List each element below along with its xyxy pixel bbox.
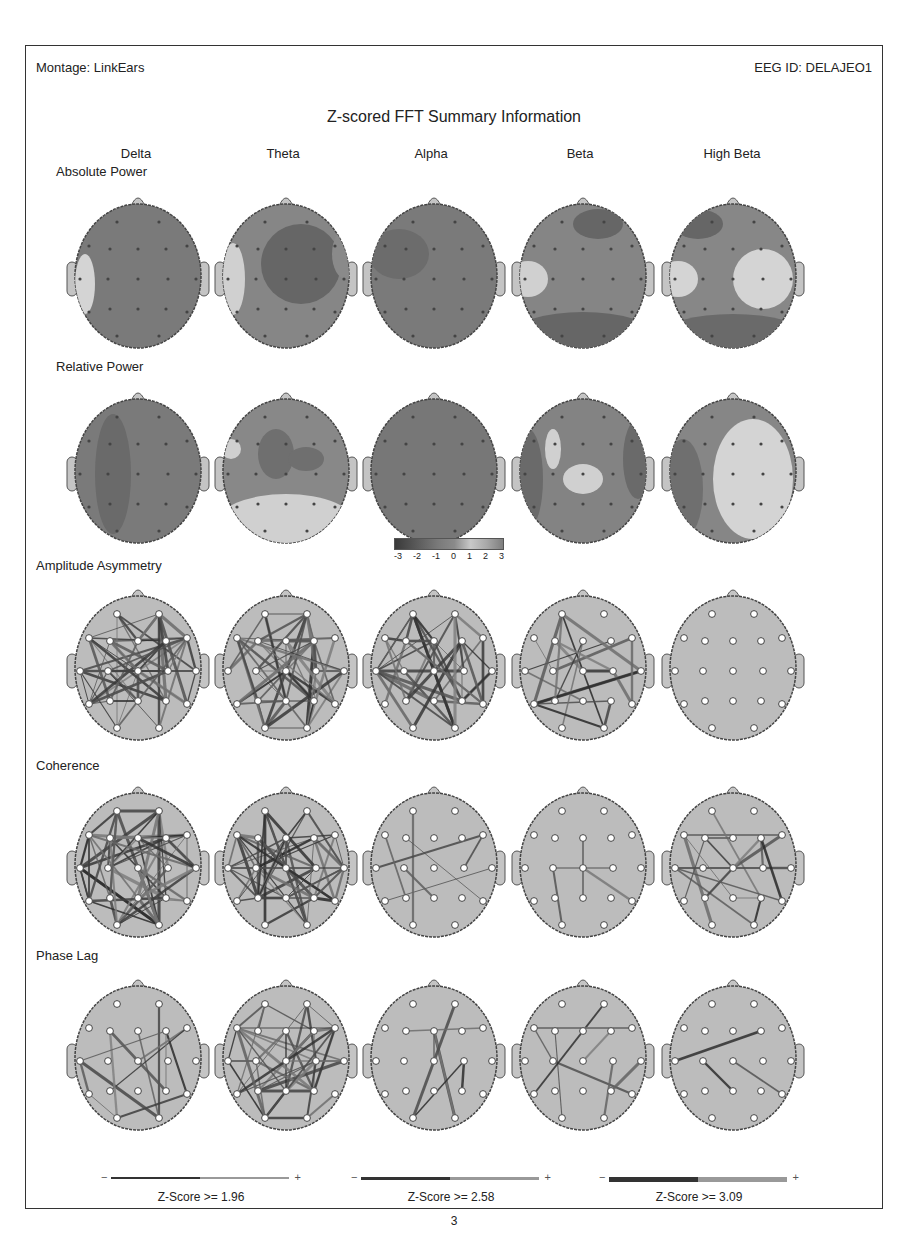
colorbar-ticks: -3 -2 -1 0 1 2 3 xyxy=(394,551,504,561)
head-map-amplitude-asymmetry-high-beta xyxy=(658,576,808,746)
minus-sign: − xyxy=(599,1171,605,1183)
band-header-theta: Theta xyxy=(213,146,353,161)
tick: 1 xyxy=(467,551,472,561)
legend-z-196: − + Z-Score >= 1.96 xyxy=(101,1174,301,1204)
head-map-amplitude-asymmetry-alpha xyxy=(359,576,509,746)
minus-sign: − xyxy=(351,1171,357,1183)
tick: 2 xyxy=(483,551,488,561)
head-map-amplitude-asymmetry-beta xyxy=(508,576,658,746)
tick: -3 xyxy=(394,551,402,561)
page-number: 3 xyxy=(26,1214,882,1228)
row-label-amplitude-asymmetry: Amplitude Asymmetry xyxy=(36,558,162,573)
head-map-relative-power-theta xyxy=(211,379,361,549)
montage-label: Montage: LinkEars xyxy=(36,60,144,75)
head-map-phase-lag-theta xyxy=(211,966,361,1136)
row-label-absolute-power: Absolute Power xyxy=(56,164,147,179)
colorbar-gradient xyxy=(394,538,504,550)
head-map-phase-lag-delta xyxy=(63,966,213,1136)
head-map-coherence-theta xyxy=(211,773,361,943)
head-map-absolute-power-alpha xyxy=(359,184,509,354)
page-title: Z-scored FFT Summary Information xyxy=(26,108,882,126)
head-map-absolute-power-theta xyxy=(211,184,361,354)
z-colorbar: -3 -2 -1 0 1 2 3 xyxy=(394,538,504,561)
head-map-coherence-alpha xyxy=(359,773,509,943)
plus-sign: + xyxy=(295,1171,301,1183)
row-label-phase-lag: Phase Lag xyxy=(36,948,98,963)
head-map-coherence-delta xyxy=(63,773,213,943)
legend-line xyxy=(609,1177,787,1182)
eeg-id-label: EEG ID: DELAJEO1 xyxy=(754,60,872,75)
tick: -1 xyxy=(432,551,440,561)
legend-z-258: − + Z-Score >= 2.58 xyxy=(351,1174,551,1204)
plus-sign: + xyxy=(793,1171,799,1183)
tick: 3 xyxy=(499,551,504,561)
tick: -2 xyxy=(413,551,421,561)
head-map-phase-lag-high-beta xyxy=(658,966,808,1136)
row-label-coherence: Coherence xyxy=(36,758,100,773)
legend-line xyxy=(361,1177,539,1180)
head-map-relative-power-alpha xyxy=(359,379,509,549)
legend-label: Z-Score >= 3.09 xyxy=(599,1190,799,1204)
head-map-relative-power-high-beta xyxy=(658,379,808,549)
legend-z-309: − + Z-Score >= 3.09 xyxy=(599,1174,799,1204)
band-header-beta: Beta xyxy=(510,146,650,161)
band-header-high-beta: High Beta xyxy=(662,146,802,161)
plus-sign: + xyxy=(545,1171,551,1183)
head-map-phase-lag-beta xyxy=(508,966,658,1136)
band-header-delta: Delta xyxy=(66,146,206,161)
head-map-relative-power-beta xyxy=(508,379,658,549)
head-map-absolute-power-beta xyxy=(508,184,658,354)
head-map-relative-power-delta xyxy=(63,379,213,549)
head-map-amplitude-asymmetry-theta xyxy=(211,576,361,746)
report-page: Montage: LinkEars EEG ID: DELAJEO1 Z-sco… xyxy=(25,45,883,1209)
head-map-absolute-power-high-beta xyxy=(658,184,808,354)
minus-sign: − xyxy=(101,1171,107,1183)
legend-line xyxy=(111,1177,289,1179)
legend-label: Z-Score >= 2.58 xyxy=(351,1190,551,1204)
row-label-relative-power: Relative Power xyxy=(56,359,143,374)
head-map-phase-lag-alpha xyxy=(359,966,509,1136)
tick: 0 xyxy=(451,551,456,561)
head-map-absolute-power-delta xyxy=(63,184,213,354)
legend-label: Z-Score >= 1.96 xyxy=(101,1190,301,1204)
band-header-alpha: Alpha xyxy=(361,146,501,161)
head-map-coherence-high-beta xyxy=(658,773,808,943)
head-map-amplitude-asymmetry-delta xyxy=(63,576,213,746)
head-map-coherence-beta xyxy=(508,773,658,943)
